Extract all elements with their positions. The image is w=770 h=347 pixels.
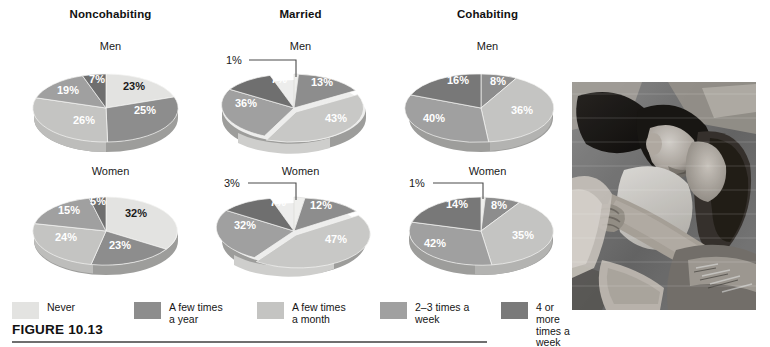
legend-item-few-times-a-year: A few times a year xyxy=(134,302,223,326)
sex-label-noncohabiting-women: Women xyxy=(18,165,203,177)
slice-label-few-year: 13% xyxy=(311,76,333,88)
legend-swatch-2-3-times-a-week xyxy=(380,302,407,319)
slice-label-4-more-week: 7% xyxy=(270,196,286,208)
group-title-noncohabiting: Noncohabiting xyxy=(18,8,203,20)
slice-label-few-month: 35% xyxy=(512,229,534,241)
legend-swatch-few-times-a-month xyxy=(257,302,284,319)
legend-label-few-times-a-month: A few times a month xyxy=(292,302,346,326)
figure-10-13: Noncohabiting Married Cohabiting Men Men… xyxy=(0,0,770,347)
legend-swatch-4-or-more-times-a-week xyxy=(501,302,528,319)
slice-label-4-more-week: 7% xyxy=(271,73,287,85)
legend-label-2-3-times-a-week: 2–3 times a week xyxy=(415,302,469,326)
slice-label-4-more-week: 7% xyxy=(89,73,105,85)
slice-label-few-year: 12% xyxy=(310,199,332,211)
slice-label-4-more-week: 14% xyxy=(446,198,468,210)
slice-label-never: 32% xyxy=(125,207,147,219)
slice-label-2-3-week: 36% xyxy=(235,97,257,109)
legend-item-4-or-more-times-a-week: 4 or more times a week xyxy=(501,302,572,347)
legend-label-4-or-more-times-a-week: 4 or more times a week xyxy=(536,302,572,347)
slice-label-few-month: 36% xyxy=(511,104,533,116)
slice-label-2-3-week: 19% xyxy=(57,84,79,96)
slice-label-few-year: 23% xyxy=(109,239,131,251)
slice-label-4-more-week: 5% xyxy=(90,195,106,207)
slice-label-2-3-week: 32% xyxy=(234,219,256,231)
pie-noncohabiting-women: 32% 23% 24% 15% 5% xyxy=(18,177,198,279)
slice-label-few-month: 26% xyxy=(73,114,95,126)
pie-married-women: 3% 12% 47% 32% 7% xyxy=(208,177,388,279)
legend-swatch-few-times-a-year xyxy=(134,302,161,319)
slice-label-2-3-week: 15% xyxy=(58,204,80,216)
callout-label-1-percent: 1% xyxy=(226,54,242,66)
callout-label-1-percent: 1% xyxy=(409,177,425,189)
slice-label-few-year: 8% xyxy=(490,75,506,87)
legend-swatch-never xyxy=(12,302,39,319)
slice-label-few-month: 47% xyxy=(325,233,347,245)
caption-rule xyxy=(12,341,487,343)
legend-label-few-times-a-year: A few times a year xyxy=(169,302,223,326)
pie-cohabiting-women: 1% 8% 35% 42% 14% xyxy=(395,177,575,279)
sex-label-cohabiting-women: Women xyxy=(395,165,580,177)
slice-label-few-month: 24% xyxy=(55,231,77,243)
legend-item-few-times-a-month: A few times a month xyxy=(257,302,346,326)
group-title-cohabiting: Cohabiting xyxy=(395,8,580,20)
slice-label-4-more-week: 16% xyxy=(447,74,469,86)
couple-embracing-photo xyxy=(572,82,756,310)
slice-label-never: 23% xyxy=(123,80,145,92)
callout-leader-line xyxy=(433,183,483,199)
pie-cohabiting-men: 8% 36% 40% 16% xyxy=(395,52,575,154)
callout-label-3-percent: 3% xyxy=(224,177,240,189)
group-title-married: Married xyxy=(208,8,393,20)
sex-label-married-men: Men xyxy=(208,40,393,52)
slice-label-2-3-week: 42% xyxy=(424,237,446,249)
slice-label-few-month: 43% xyxy=(325,112,347,124)
slice-label-2-3-week: 40% xyxy=(423,112,445,124)
sex-label-cohabiting-men: Men xyxy=(395,40,580,52)
legend-item-never: Never xyxy=(12,302,75,319)
legend-label-never: Never xyxy=(47,302,75,314)
legend-item-2-3-times-a-week: 2–3 times a week xyxy=(380,302,469,326)
sex-label-noncohabiting-men: Men xyxy=(18,40,203,52)
pie-married-men: 1% 13% 43% 36% 7% xyxy=(208,52,388,154)
slice-label-few-year: 8% xyxy=(491,199,507,211)
sex-label-married-women: Women xyxy=(208,165,393,177)
figure-caption: FIGURE 10.13 xyxy=(12,322,103,337)
slice-label-few-year: 25% xyxy=(134,104,156,116)
pie-noncohabiting-men: 23% 25% 26% 19% 7% xyxy=(18,52,198,154)
